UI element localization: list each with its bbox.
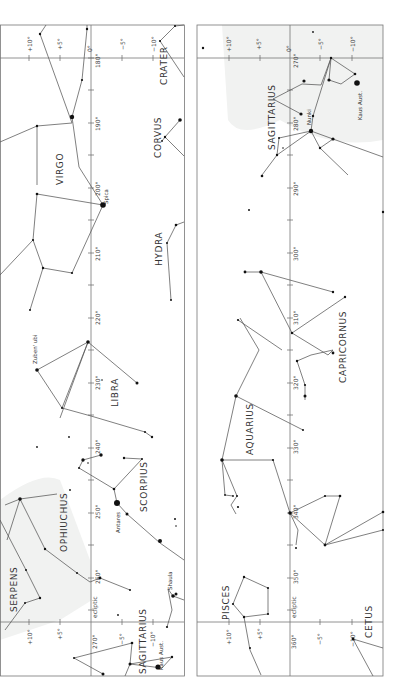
left-ecliptic-label: ecliptic (91, 597, 99, 618)
dec-label-m5: −5° (119, 38, 126, 50)
lon-label-180: 180° (94, 54, 101, 68)
label-antares: Antares (115, 512, 121, 533)
label-zubenubi: Zuben' ubi (32, 334, 38, 364)
lon-label-350: 350° (292, 570, 299, 584)
lon-label-280: 280° (292, 117, 299, 131)
right-ecliptic-label: ecliptic (290, 597, 298, 618)
label-sagittarius-left: SAGITTARIUS (138, 608, 148, 674)
label-shaula: Shaula (167, 571, 173, 590)
lon-label-220: 220° (94, 311, 101, 325)
r-dec-label-m5: −5° (317, 38, 324, 50)
star-kaus-australis-right (354, 80, 360, 86)
right-panel: +10° +5° 0° −5° −10° 270° 280° 290° 300°… (197, 25, 384, 676)
left-panel: +10° +5° 0° −5° −10° 180° 190° 200° 210°… (0, 25, 185, 676)
dec-label-p5-bottom: +5° (56, 628, 63, 640)
lon-label-300: 300° (292, 247, 299, 261)
label-virgo: VIRGO (55, 153, 65, 185)
r-dec-label-0: 0° (285, 45, 292, 52)
lon-label-270-right: 270° (292, 54, 299, 68)
r-dec-label-p10: +10° (225, 36, 232, 52)
dec-label-p10-bottom: +10° (26, 629, 33, 645)
label-kaus-australis-right: Kaus Aust. (357, 91, 363, 120)
label-aquarius: AQUARIUS (245, 403, 255, 455)
constellation-pisces (232, 576, 269, 675)
r-dec-label-p5: +5° (255, 38, 262, 50)
star-nunki (309, 129, 313, 133)
star-chart: +10° +5° 0° −5° −10° 180° 190° 200° 210°… (0, 0, 397, 695)
dec-label-m10: −10° (150, 36, 157, 52)
constellation-hydra (166, 222, 184, 301)
label-serpens: SERPENS (9, 567, 19, 612)
r-dec-label-p5-bottom: +5° (256, 628, 263, 640)
label-crater: CRATER (159, 46, 169, 85)
lon-label-290: 290° (292, 182, 299, 196)
lon-label-330: 330° (292, 440, 299, 454)
label-ophiuchus: OPHIUCHUS (59, 493, 69, 552)
dec-label-m5-bottom: −5° (118, 633, 125, 645)
label-capricornus: CAPRICORNUS (338, 311, 348, 383)
star-zubenubi (35, 368, 39, 372)
label-kaus-australis-left: Kaus Aust. (158, 641, 164, 670)
label-pisces: PISCES (221, 585, 231, 620)
constellation-corvus (161, 118, 184, 156)
label-libra: LIBRA (110, 378, 120, 407)
r-dec-label-m10: −10° (349, 36, 356, 52)
label-scorpius: SCORPIUS (139, 461, 149, 512)
constellation-cetus (352, 638, 383, 676)
label-hydra: HYDRA (154, 232, 164, 266)
lon-label-240: 240° (94, 440, 101, 454)
star-shaula (171, 594, 175, 598)
r-dec-label-p10-bottom: +10° (225, 629, 232, 645)
lon-label-270: 270° (91, 635, 98, 649)
lon-label-230: 230° (94, 376, 101, 390)
lon-label-200: 200° (94, 182, 101, 196)
label-corvus: CORVUS (153, 117, 163, 158)
dec-label-0: 0° (86, 45, 93, 52)
label-cetus: CETUS (364, 605, 374, 638)
dec-label-m10-bottom: −10° (149, 631, 156, 647)
lon-label-190: 190° (94, 117, 101, 131)
lon-label-250: 250° (94, 505, 101, 519)
r-dec-label-m5-bottom: −5° (316, 633, 323, 645)
dec-label-p10: +10° (26, 36, 33, 52)
lon-label-360: 360° (290, 635, 297, 649)
label-spica: Spica (103, 189, 110, 204)
constellation-sagittarius-left (73, 589, 184, 676)
lon-label-320: 320° (292, 376, 299, 390)
lon-label-310: 310° (292, 311, 299, 325)
constellation-virgo (0, 25, 106, 311)
label-sagittarius-right: SAGITTARIUS (267, 84, 277, 150)
dec-label-p5: +5° (56, 38, 63, 50)
label-nunki: Nunki (306, 109, 312, 125)
star-antares (114, 500, 120, 506)
lon-label-210: 210° (94, 247, 101, 261)
